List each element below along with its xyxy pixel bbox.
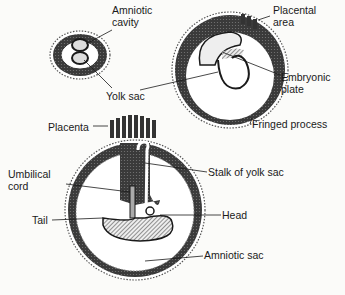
embryo-development-diagram: Amniotic cavity Yolk sac Placental area … [0,0,345,295]
label-tail: Tail [32,214,48,226]
label-line: cavity [112,16,152,28]
label-line: plate [281,83,331,95]
label-stalk-of-yolk-sac: Stalk of yolk sac [208,166,284,178]
label-embryonic-plate: Embryonic plate [281,71,331,95]
label-line: Umbilical [8,168,51,180]
label-yolk-sac: Yolk sac [106,90,145,102]
late-embryo-figure [52,115,221,280]
early-embryo-figure [50,30,112,88]
label-line: area [273,16,316,28]
intermediate-embryo-figure [140,12,288,128]
label-line: Placental [273,4,316,16]
label-placenta: Placenta [48,121,89,133]
label-fringed-process: Fringed process [252,118,327,130]
label-head: Head [222,209,247,221]
label-amniotic-cavity: Amniotic cavity [112,4,152,28]
label-line: cord [8,180,51,192]
label-line: Amniotic [112,4,152,16]
placenta-villi [110,115,156,138]
label-line: Embryonic [281,71,331,83]
label-amniotic-sac: Amniotic sac [204,249,264,261]
label-umbilical-cord: Umbilical cord [8,168,51,192]
label-placental-area: Placental area [273,4,316,28]
